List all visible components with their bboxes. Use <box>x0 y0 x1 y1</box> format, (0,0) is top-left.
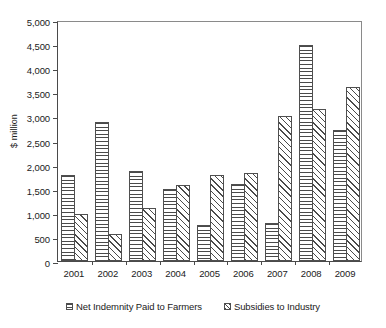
x-axis-tick <box>227 261 228 265</box>
bar-chart: $ million 05001,0001,5002,0002,5003,0003… <box>0 0 386 328</box>
y-axis-tick <box>53 215 58 216</box>
x-axis-tick <box>295 261 296 265</box>
y-axis-tick <box>53 263 58 264</box>
x-axis-tick <box>329 261 330 265</box>
bar-net-indemnity <box>333 130 347 261</box>
y-axis-tick <box>53 191 58 192</box>
y-axis-tick-label: 3,500 <box>27 89 50 100</box>
x-axis-tick <box>92 261 93 265</box>
bar-net-indemnity <box>265 223 279 261</box>
bar-group <box>333 22 360 261</box>
bar-net-indemnity <box>61 175 75 261</box>
bar-group <box>299 22 326 261</box>
x-axis-label: 2009 <box>322 268 368 279</box>
bar-group <box>129 22 156 261</box>
y-axis-tick <box>53 94 58 95</box>
legend-label: Subsidies to Industry <box>234 301 320 312</box>
legend-label: Net Indemnity Paid to Farmers <box>76 301 202 312</box>
y-axis-tick <box>53 239 58 240</box>
bar-group <box>61 22 88 261</box>
legend-item-net-indemnity: Net Indemnity Paid to Farmers <box>66 301 202 312</box>
y-axis-tick-label: 0 <box>45 258 50 269</box>
y-axis-tick <box>53 46 58 47</box>
y-axis-tick-label: 5,000 <box>27 17 50 28</box>
bar-net-indemnity <box>95 122 109 261</box>
y-axis-tick <box>53 118 58 119</box>
bar-group <box>95 22 122 261</box>
y-axis-tick-label: 4,500 <box>27 41 50 52</box>
x-axis-tick <box>126 261 127 265</box>
bar-net-indemnity <box>299 45 313 261</box>
y-axis-tick <box>53 167 58 168</box>
bar-subsidies <box>142 208 156 262</box>
bar-group <box>197 22 224 261</box>
bar-subsidies <box>278 116 292 261</box>
indemnity-swatch-icon <box>66 303 73 310</box>
bar-subsidies <box>312 109 326 261</box>
y-axis-title: $ million <box>9 91 19 171</box>
y-axis-tick-label: 3,000 <box>27 113 50 124</box>
bar-net-indemnity <box>163 189 177 261</box>
y-axis-tick <box>53 22 58 23</box>
bar-net-indemnity <box>197 225 211 261</box>
bar-group <box>265 22 292 261</box>
bar-group <box>163 22 190 261</box>
bar-group <box>231 22 258 261</box>
bar-subsidies <box>210 175 224 261</box>
x-axis-tick <box>194 261 195 265</box>
bar-subsidies <box>74 214 88 261</box>
x-axis-tick <box>160 261 161 265</box>
y-axis-tick-label: 2,000 <box>27 161 50 172</box>
x-axis-tick <box>261 261 262 265</box>
bar-subsidies <box>244 173 258 261</box>
plot-area: 05001,0001,5002,0002,5003,0003,5004,0004… <box>57 21 362 262</box>
chart-legend: Net Indemnity Paid to Farmers Subsidies … <box>0 301 386 312</box>
bar-subsidies <box>176 185 190 261</box>
y-axis-tick-label: 500 <box>34 233 50 244</box>
bar-subsidies <box>346 87 360 261</box>
subsidies-swatch-icon <box>224 303 231 310</box>
y-axis-tick <box>53 143 58 144</box>
y-axis-tick-label: 1,000 <box>27 209 50 220</box>
y-axis-tick-label: 4,000 <box>27 65 50 76</box>
bar-net-indemnity <box>231 184 245 261</box>
bar-subsidies <box>108 234 122 261</box>
y-axis-tick-label: 2,500 <box>27 137 50 148</box>
y-axis-tick-label: 1,500 <box>27 185 50 196</box>
legend-item-subsidies: Subsidies to Industry <box>224 301 320 312</box>
y-axis-tick <box>53 70 58 71</box>
bar-net-indemnity <box>129 171 143 261</box>
